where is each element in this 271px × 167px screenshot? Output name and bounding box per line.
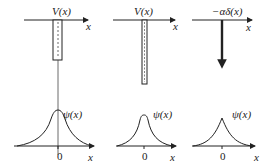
panel-2-potential: V(x) x: [113, 5, 178, 84]
panel-3-x-label: x: [245, 21, 251, 33]
panel-3-psi-label: ψ(x): [232, 108, 251, 121]
panel-2-x-label: x: [172, 20, 178, 32]
panel-3-potential: −αδ(x) x: [192, 5, 252, 64]
panel-1-potential: V(x) x: [24, 5, 91, 155]
panel-2-origin-label: 0: [142, 150, 148, 162]
panel-2-potential-label: V(x): [134, 5, 153, 18]
panel-1-wavefunction: ψ(x) 0 x: [14, 108, 94, 163]
diagram-canvas: V(x) x ψ(x) 0 x V(x) x ψ(x) 0 x −αδ(x) x…: [0, 0, 271, 167]
panel-3-origin-label: 0: [220, 150, 226, 162]
panel-2-wf-x-label: x: [169, 151, 175, 163]
panel-1-wf-x-label: x: [87, 151, 93, 163]
panel-1-potential-label: V(x): [52, 5, 71, 18]
panel-3-wavefunction: ψ(x) 0 x: [192, 108, 259, 163]
panel-1-psi-label: ψ(x): [63, 108, 82, 121]
panel-3-potential-label: −αδ(x): [212, 5, 243, 18]
panel-2-psi-label: ψ(x): [153, 108, 172, 121]
panel-3-wf-x-label: x: [253, 151, 259, 163]
panel-1-origin-label: 0: [57, 150, 63, 162]
panel-2-wavefunction: ψ(x) 0 x: [116, 108, 176, 163]
panel-1-x-label: x: [85, 20, 91, 32]
